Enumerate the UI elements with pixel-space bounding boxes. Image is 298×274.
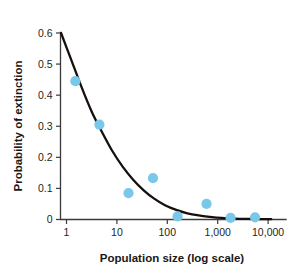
y-tick-label: 0.3 — [38, 120, 53, 132]
x-tick-label: 10,000 — [252, 226, 284, 238]
y-axis-title: Probability of extinction — [12, 61, 24, 192]
y-tick-label: 0.4 — [38, 89, 53, 101]
data-point — [225, 213, 235, 223]
data-point — [123, 188, 133, 198]
y-tick-label: 0.1 — [38, 182, 53, 194]
y-tick-label: 0 — [47, 213, 53, 225]
y-tick-label: 0.2 — [38, 151, 53, 163]
data-point — [250, 212, 260, 222]
y-tick-label: 0.5 — [38, 58, 53, 70]
x-axis-title: Population size (log scale) — [100, 252, 245, 264]
x-tick-label: 10 — [111, 226, 123, 238]
data-point — [172, 211, 182, 221]
data-point — [148, 173, 158, 183]
y-tick-label: 0.6 — [38, 27, 53, 39]
x-tick-label: 1 — [64, 226, 70, 238]
data-point — [201, 199, 211, 209]
x-tick-label: 1,000 — [205, 226, 231, 238]
extinction-probability-chart: 00.10.20.30.40.50.6 1101001,00010,000 Po… — [0, 0, 298, 274]
chart-figure: 00.10.20.30.40.50.6 1101001,00010,000 Po… — [0, 0, 298, 274]
data-point — [94, 120, 104, 130]
x-tick-label: 100 — [159, 226, 177, 238]
data-point — [70, 76, 80, 86]
